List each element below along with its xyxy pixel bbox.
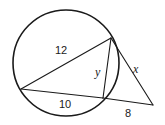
label-bc: y	[94, 65, 101, 79]
label-cp: 8	[125, 107, 131, 119]
chord-ac	[21, 89, 103, 98]
segment-bp	[111, 38, 153, 105]
secant-external-cp	[103, 98, 153, 105]
geometry-diagram: 12 y x 10 8	[0, 0, 165, 125]
label-ac: 10	[59, 98, 71, 110]
label-bp: x	[132, 62, 139, 76]
chord-bc	[103, 38, 111, 98]
label-ab: 12	[55, 44, 67, 56]
